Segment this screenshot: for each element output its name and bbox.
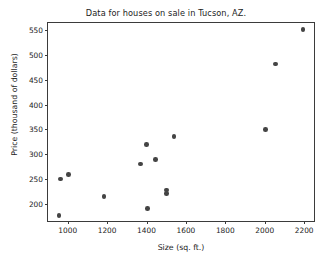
y-axis-tick-label: 250 xyxy=(29,174,43,183)
x-axis-tick-mark xyxy=(304,221,305,224)
x-axis-tick-label: 1600 xyxy=(177,226,196,235)
x-axis-tick-mark xyxy=(265,221,266,224)
x-axis-tick-label: 1400 xyxy=(137,226,156,235)
data-point xyxy=(66,172,71,177)
y-axis-tick-label: 500 xyxy=(29,51,43,60)
y-axis-label: Price (thousand of dollars) xyxy=(10,5,19,205)
data-point xyxy=(301,27,306,32)
x-axis-tick-label: 1000 xyxy=(58,226,77,235)
y-axis-tick-label: 350 xyxy=(29,125,43,134)
data-point xyxy=(153,157,158,162)
y-axis-tick-label: 550 xyxy=(29,26,43,35)
x-axis-tick-mark xyxy=(68,221,69,224)
data-point xyxy=(172,134,177,139)
data-point xyxy=(144,142,149,147)
data-point xyxy=(138,162,143,167)
x-axis-tick-mark xyxy=(225,221,226,224)
scatter-chart-figure: Data for houses on sale in Tucson, AZ. 2… xyxy=(0,0,332,266)
y-axis-tick-label: 450 xyxy=(29,75,43,84)
plot-area: 200250300350400450500550 100012001400160… xyxy=(47,22,315,222)
data-point xyxy=(102,194,107,199)
y-axis-tick-label: 300 xyxy=(29,150,43,159)
data-point xyxy=(273,62,278,67)
data-point xyxy=(164,188,169,193)
x-axis-tick-mark xyxy=(186,221,187,224)
y-axis-tick-label: 400 xyxy=(29,100,43,109)
x-axis-label: Size (sq. ft.) xyxy=(47,243,315,252)
data-point xyxy=(263,127,268,132)
x-axis-tick-label: 2000 xyxy=(255,226,274,235)
y-axis-tick-label: 200 xyxy=(29,199,43,208)
data-point xyxy=(58,177,63,182)
x-axis-tick-label: 1800 xyxy=(216,226,235,235)
chart-title: Data for houses on sale in Tucson, AZ. xyxy=(0,8,332,18)
data-point xyxy=(145,206,150,211)
data-points-layer xyxy=(48,23,314,221)
data-point xyxy=(164,191,169,196)
x-axis-tick-mark xyxy=(147,221,148,224)
x-axis-tick-label: 1200 xyxy=(98,226,117,235)
x-axis-tick-label: 2200 xyxy=(295,226,314,235)
x-axis-tick-mark xyxy=(107,221,108,224)
data-point xyxy=(57,213,62,218)
